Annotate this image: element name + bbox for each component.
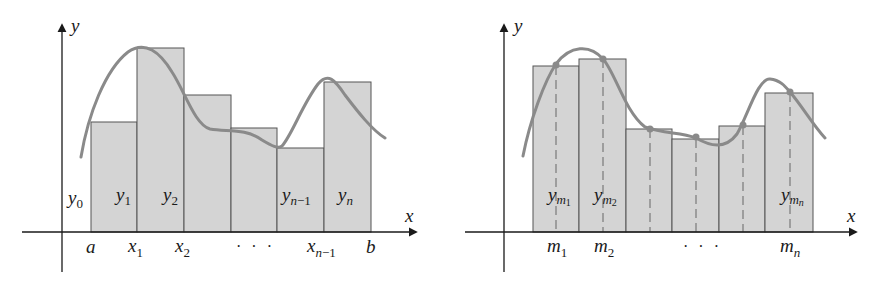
left-bars	[91, 48, 371, 232]
left-y-axis-label: y	[69, 15, 80, 36]
left-x-axis-label: x	[404, 205, 414, 226]
right-abscissa-labels: m1 m2 · · · mn	[547, 235, 800, 260]
label-y0: y0	[66, 187, 83, 211]
tick-m2: m2	[594, 235, 614, 260]
bar-6	[324, 82, 371, 232]
tick-xn-1: xn−1	[306, 235, 336, 260]
bar-3	[626, 129, 672, 232]
right-x-axis-label: x	[846, 205, 856, 226]
tick-m1: m1	[547, 235, 567, 260]
tick-ellipsis: · · ·	[236, 238, 275, 255]
tick-ellipsis: · · ·	[683, 238, 722, 255]
bar-1	[91, 122, 137, 232]
tick-mn: mn	[780, 235, 800, 260]
tick-b: b	[366, 236, 376, 257]
right-bars	[533, 59, 813, 232]
right-y-axis-label: y	[512, 15, 523, 36]
left-abscissa-labels: a x1 x2 · · · xn−1 b	[86, 235, 376, 260]
right-figure: y x ym1 ym2 ymn m1 m2 · · · mn	[465, 15, 856, 272]
tick-x1: x1	[127, 235, 143, 260]
riemann-sum-diagrams: y x y0 y1 y2 yn−1 yn a x1	[0, 0, 892, 284]
tick-a: a	[86, 236, 96, 257]
bar-3	[184, 95, 231, 232]
tick-x2: x2	[174, 235, 190, 260]
left-figure: y x y0 y1 y2 yn−1 yn a x1	[22, 15, 416, 272]
